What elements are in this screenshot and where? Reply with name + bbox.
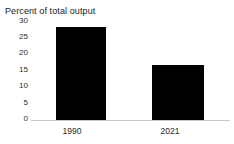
y-tick-label: 25: [6, 33, 28, 41]
bar-chart: Percent of total output 30 25 20 15 10 5…: [0, 0, 234, 144]
y-tick-label: 30: [6, 17, 28, 25]
plot-area: [34, 20, 230, 120]
y-tick-label: 15: [6, 66, 28, 74]
y-tick-label: 10: [6, 82, 28, 90]
bar-1990: [56, 27, 106, 120]
y-tick-label: 5: [6, 99, 28, 107]
x-axis-line: [31, 120, 230, 121]
x-tick-label-2021: 2021: [134, 126, 206, 136]
y-axis: 30 25 20 15 10 5 0: [6, 0, 28, 144]
bar-2021: [152, 65, 204, 120]
y-tick-label: 20: [6, 49, 28, 57]
bar-slot: [152, 20, 204, 120]
y-tick-label: 0: [6, 115, 28, 123]
x-tick-label-1990: 1990: [36, 126, 108, 136]
bar-slot: [56, 20, 106, 120]
